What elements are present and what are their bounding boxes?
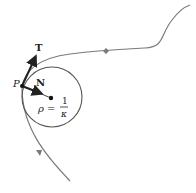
tangent-vector [22, 58, 35, 86]
tangent-label: T [35, 42, 43, 53]
rho-label: ρ = [37, 103, 55, 114]
fraction-numerator: 1 [62, 96, 68, 106]
curve-direction-arrow-icon [36, 150, 42, 156]
center-point [49, 96, 53, 100]
curve-direction-arrow-icon [103, 48, 109, 54]
normal-label: N [36, 77, 45, 88]
point-label: P [12, 78, 20, 89]
fraction-denominator: κ [60, 109, 67, 119]
point-p [20, 84, 24, 88]
osculating-circle-diagram: T N P ρ = 1 κ [0, 0, 196, 193]
curve [22, 5, 190, 181]
